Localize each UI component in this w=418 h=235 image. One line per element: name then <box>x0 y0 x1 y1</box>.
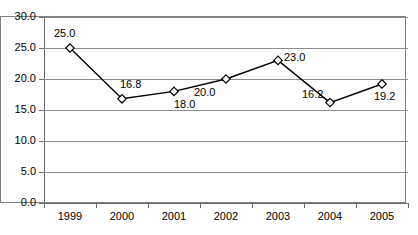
data-point-marker <box>222 75 230 83</box>
data-point-marker <box>378 80 386 88</box>
data-point-label: 23.0 <box>284 52 305 63</box>
line-chart: 30.025.020.015.010.05.00.0 1999200020012… <box>0 0 418 235</box>
data-point-label: 16.8 <box>120 79 141 90</box>
data-point-marker <box>170 87 178 95</box>
data-point-label: 18.0 <box>174 99 195 110</box>
data-point-label: 16.2 <box>302 89 323 100</box>
data-point-label: 20.0 <box>194 87 215 98</box>
data-point-label: 19.2 <box>374 91 395 102</box>
data-point-label: 25.0 <box>54 28 75 39</box>
series-markers <box>66 44 386 107</box>
